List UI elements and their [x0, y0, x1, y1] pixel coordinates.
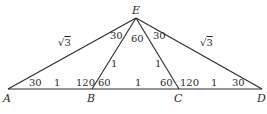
angle-label-ecd: 120: [180, 78, 199, 88]
angle-label-bec: 60: [131, 34, 144, 44]
angle-label-ebc: 60: [98, 78, 111, 88]
segment-ae: [8, 18, 136, 89]
angle-label-abe: 120: [76, 78, 95, 88]
side-label-be: 1: [111, 59, 117, 69]
vertex-label-e: E: [132, 5, 140, 16]
side-label-de: √3: [200, 38, 213, 48]
angle-label-a: 30: [29, 78, 42, 88]
angle-label-aeb: 30: [110, 31, 123, 41]
side-label-ae: √3: [58, 38, 71, 48]
vertex-label-c: C: [174, 93, 182, 104]
angle-label-ced: 30: [153, 31, 166, 41]
diagram-lines: [0, 0, 267, 114]
vertex-label-d: D: [257, 93, 266, 104]
side-label-bc: 1: [135, 78, 141, 88]
angle-label-d: 30: [232, 78, 245, 88]
side-label-ce: 1: [155, 59, 161, 69]
side-label-cd: 1: [211, 78, 217, 88]
sqrt-radicand: 3: [206, 37, 212, 48]
vertex-label-a: A: [3, 93, 11, 104]
angle-label-bce: 60: [160, 78, 173, 88]
vertex-label-b: B: [87, 93, 95, 104]
side-label-ab: 1: [54, 78, 60, 88]
triangle-diagram: A B C D E √3 √3 1 1 1 1 1 30 120 60 60 1…: [0, 0, 267, 114]
sqrt-radicand: 3: [64, 37, 70, 48]
